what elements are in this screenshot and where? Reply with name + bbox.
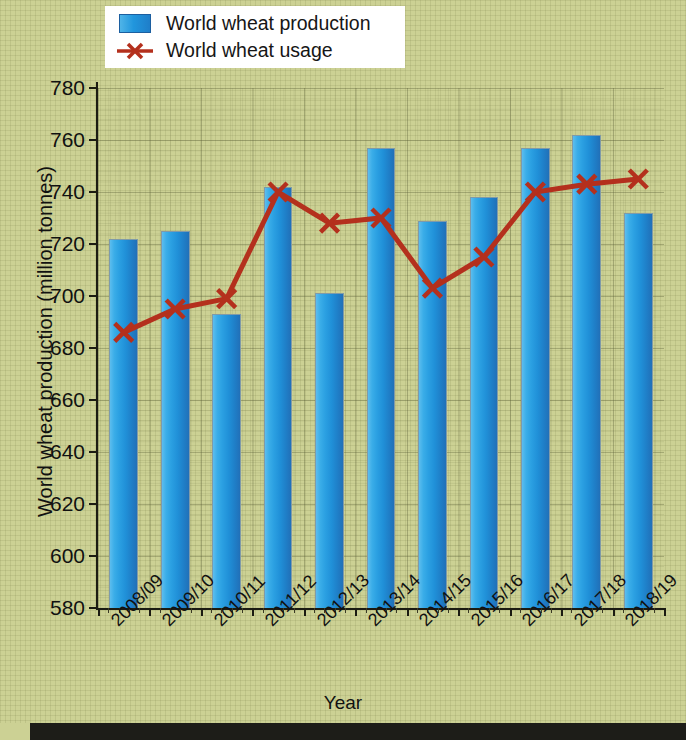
y-tick-label: 640 [50, 440, 85, 464]
x-tick [664, 608, 666, 616]
usage-x-marker [423, 279, 441, 297]
usage-x-marker [115, 323, 133, 341]
legend-item-usage: World wheat usage [114, 37, 396, 64]
plot-area: 580600620640660680700720740760780 2008/0… [98, 88, 664, 608]
y-tick [89, 295, 98, 297]
y-tick [89, 555, 98, 557]
x-tick [98, 608, 100, 616]
x-tick [149, 608, 151, 616]
usage-x-marker [269, 183, 287, 201]
legend-item-production: World wheat production [114, 10, 396, 37]
y-tick-label: 720 [50, 232, 85, 256]
y-tick-label: 680 [50, 336, 85, 360]
y-tick [89, 347, 98, 349]
y-tick-label: 760 [50, 128, 85, 152]
x-tick [613, 608, 615, 616]
x-tick [304, 608, 306, 616]
y-tick [89, 139, 98, 141]
y-tick-label: 740 [50, 180, 85, 204]
y-tick [89, 243, 98, 245]
x-tick [252, 608, 254, 616]
x-axis-title: Year [0, 692, 686, 714]
chart-legend: World wheat production World wheat usage [105, 6, 405, 68]
y-tick [89, 87, 98, 89]
line-series-usage [98, 88, 664, 608]
y-tick-label: 660 [50, 388, 85, 412]
x-tick [510, 608, 512, 616]
y-tick [89, 607, 98, 609]
line-x-marker-icon [114, 41, 156, 61]
bar-swatch-icon [114, 14, 156, 33]
y-tick [89, 503, 98, 505]
x-tick [407, 608, 409, 616]
y-tick [89, 399, 98, 401]
x-tick [458, 608, 460, 616]
y-tick-label: 600 [50, 544, 85, 568]
y-tick-label: 580 [50, 596, 85, 620]
y-tick [89, 191, 98, 193]
chart-figure: World wheat production World wheat usage… [0, 0, 686, 723]
usage-line-path [124, 179, 639, 332]
legend-label-usage: World wheat usage [166, 39, 333, 62]
x-tick [201, 608, 203, 616]
usage-x-marker [475, 248, 493, 266]
y-tick-label: 780 [50, 76, 85, 100]
bottom-band [30, 723, 686, 740]
y-tick-label: 700 [50, 284, 85, 308]
y-tick [89, 451, 98, 453]
y-tick-label: 620 [50, 492, 85, 516]
legend-label-production: World wheat production [166, 12, 371, 35]
x-tick [561, 608, 563, 616]
x-tick [355, 608, 357, 616]
